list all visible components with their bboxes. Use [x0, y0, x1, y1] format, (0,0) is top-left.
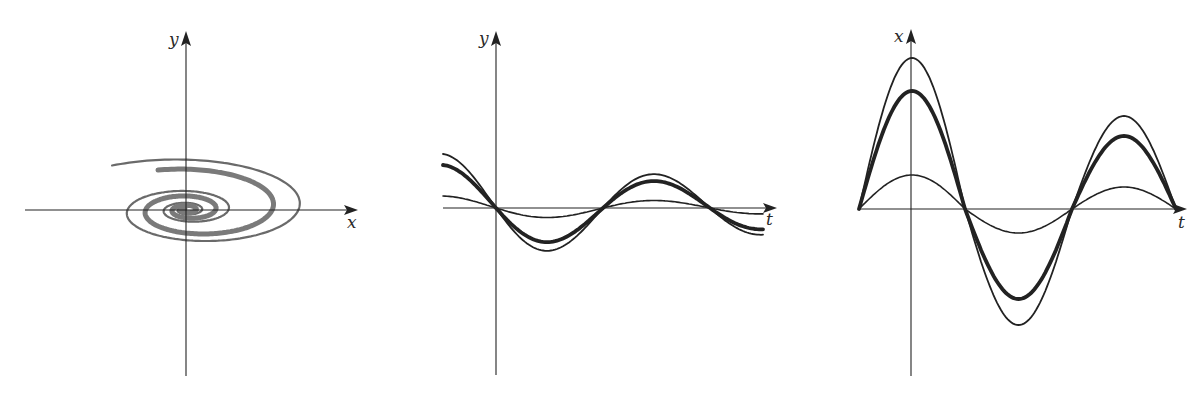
panel-x-vs-t: t x	[859, 26, 1187, 376]
y-axis-label: y	[168, 29, 179, 49]
middle-thick	[859, 91, 1176, 299]
y-axis-label: y	[478, 28, 489, 48]
outer-thin	[859, 58, 1176, 325]
t-axis-label: t	[1178, 212, 1185, 232]
t-axis-label: t	[766, 209, 773, 229]
oscillation-curves	[859, 58, 1176, 325]
x-axis-label: x	[347, 212, 357, 232]
figure-three-panels: x y t y t x	[0, 0, 1203, 401]
damped-curves	[443, 154, 763, 251]
spiral-curves	[112, 160, 300, 242]
inner-thin	[859, 175, 1176, 233]
panel-y-vs-t: t y	[443, 28, 777, 375]
middle-thick	[443, 165, 763, 242]
panel-phase-portrait: x y	[25, 29, 358, 376]
thick-spiral	[145, 169, 273, 234]
x-axis-label: x	[894, 26, 904, 46]
